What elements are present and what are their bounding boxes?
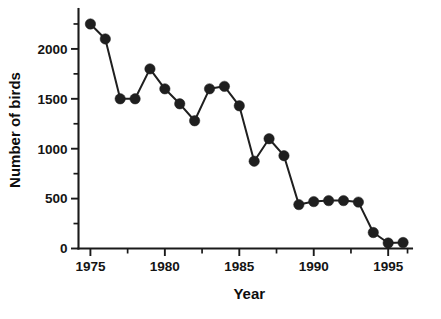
data-point-1982 <box>189 116 199 126</box>
y-tick-label-1000: 1000 <box>37 142 67 157</box>
data-point-1981 <box>175 99 185 109</box>
y-axis-tick-labels: 0500100015002000 <box>37 42 67 257</box>
data-point-1991 <box>323 195 333 205</box>
data-point-1977 <box>115 94 125 104</box>
x-tick-label-1985: 1985 <box>224 259 255 274</box>
data-point-1996 <box>398 237 408 247</box>
data-point-1987 <box>264 134 274 144</box>
y-tick-label-1500: 1500 <box>37 92 67 107</box>
data-point-1983 <box>204 84 214 94</box>
y-axis-title: Number of birds <box>6 72 23 188</box>
data-point-1993 <box>353 197 363 207</box>
data-point-1980 <box>160 84 170 94</box>
data-point-1992 <box>338 195 348 205</box>
x-tick-label-1995: 1995 <box>373 259 404 274</box>
data-point-1989 <box>294 199 304 209</box>
x-tick-label-1975: 1975 <box>75 259 106 274</box>
x-tick-label-1990: 1990 <box>299 259 329 274</box>
data-point-1988 <box>279 150 289 160</box>
data-series-line <box>90 24 403 243</box>
data-point-1976 <box>100 34 110 44</box>
x-axis-major-ticks <box>90 249 388 257</box>
data-point-1995 <box>383 238 393 248</box>
chart-container: 0500100015002000 19751980198519901995 Ye… <box>0 0 441 319</box>
y-tick-label-2000: 2000 <box>37 42 67 57</box>
data-point-1986 <box>249 156 259 166</box>
x-axis-tick-labels: 19751980198519901995 <box>75 259 403 274</box>
data-point-1979 <box>145 64 155 74</box>
x-tick-label-1980: 1980 <box>150 259 180 274</box>
bird-population-line-chart: 0500100015002000 19751980198519901995 Ye… <box>0 0 441 319</box>
data-point-1990 <box>309 196 319 206</box>
x-axis-title: Year <box>233 285 265 302</box>
data-point-1984 <box>219 81 229 91</box>
data-point-1985 <box>234 101 244 111</box>
y-axis-major-ticks <box>71 49 79 249</box>
data-point-1994 <box>368 227 378 237</box>
y-tick-label-500: 500 <box>45 191 68 206</box>
y-tick-label-0: 0 <box>60 241 68 256</box>
data-point-1975 <box>85 19 95 29</box>
data-point-1978 <box>130 94 140 104</box>
